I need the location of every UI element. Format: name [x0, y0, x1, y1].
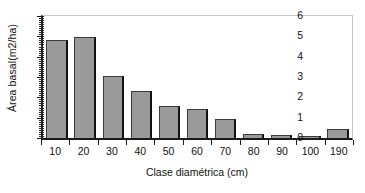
x-axis-tick	[353, 140, 354, 145]
bar-slot	[296, 16, 324, 138]
x-axis-tick-label: 100	[296, 145, 324, 157]
y-axis-major-tick	[37, 138, 44, 139]
bar	[159, 106, 180, 138]
bar	[327, 129, 348, 138]
bar	[46, 40, 67, 138]
bar-slot	[212, 16, 240, 138]
x-axis-tick-label: 190	[325, 145, 353, 157]
plot-area: 0123456	[41, 15, 353, 140]
bar-slot	[240, 16, 268, 138]
bar	[299, 136, 320, 138]
bar-slot	[99, 16, 127, 138]
bar-slot	[324, 16, 352, 138]
bar	[74, 37, 95, 138]
x-axis-tick-label: 70	[211, 145, 239, 157]
y-axis-title: Área basal(m2/ha)	[6, 0, 18, 138]
bar	[131, 91, 152, 138]
x-axis-tick-label: 90	[268, 145, 296, 157]
bar-slot	[155, 16, 183, 138]
bar-slot	[127, 16, 155, 138]
x-axis-tick-label: 80	[240, 145, 268, 157]
bar	[215, 119, 236, 138]
bar	[103, 76, 124, 138]
bar-slot	[183, 16, 211, 138]
x-axis-tick-label: 10	[41, 145, 69, 157]
x-axis-tick-labels: 102030405060708090100190	[41, 145, 353, 157]
bar-slot	[43, 16, 71, 138]
bar-chart-figure: Área basal(m2/ha) 0123456 10203040506070…	[0, 0, 365, 193]
x-axis-tick-label: 30	[98, 145, 126, 157]
bars-layer	[43, 16, 352, 138]
bar	[243, 134, 264, 138]
x-axis-tick-label: 20	[69, 145, 97, 157]
bar-slot	[268, 16, 296, 138]
x-axis-tick-label: 60	[183, 145, 211, 157]
x-axis-title: Clase diamétrica (cm)	[41, 166, 353, 178]
bar	[271, 135, 292, 138]
bar	[187, 109, 208, 138]
bar-slot	[71, 16, 99, 138]
x-axis-tick-label: 50	[154, 145, 182, 157]
x-axis-tick-label: 40	[126, 145, 154, 157]
